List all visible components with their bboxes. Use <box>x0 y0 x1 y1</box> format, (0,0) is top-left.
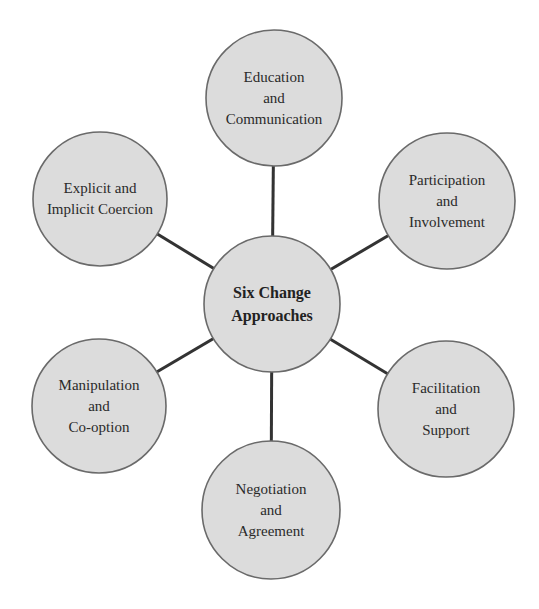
change-approaches-diagram <box>0 0 539 609</box>
node-circle-negotiation <box>202 441 340 579</box>
node-circle-coercion <box>33 132 167 266</box>
nodes <box>32 30 515 579</box>
node-circle-center <box>204 236 340 372</box>
node-circle-education <box>206 30 342 166</box>
node-circle-manipulation <box>32 339 166 473</box>
node-circle-facilitation <box>378 341 514 477</box>
node-circle-participation <box>379 133 515 269</box>
